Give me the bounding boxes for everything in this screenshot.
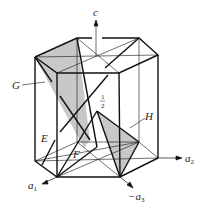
plane-H-shading bbox=[97, 111, 139, 177]
interior-lines bbox=[22, 24, 158, 177]
a2-axis-label: a2 bbox=[185, 152, 195, 166]
line-E-label: E bbox=[40, 132, 48, 144]
c-axis-label: c bbox=[93, 6, 98, 18]
plane-H-label: H bbox=[144, 110, 154, 122]
half-denominator: 2 bbox=[101, 102, 105, 110]
line-F-label: F bbox=[72, 148, 80, 160]
a1-axis-label: a1 bbox=[28, 179, 38, 193]
hexagonal-cell-diagram: c G H E F 1 2 a2 a1 −a3 bbox=[0, 0, 203, 211]
plane-G-label: G bbox=[12, 79, 20, 91]
a3-axis-label: −a3 bbox=[128, 190, 145, 204]
half-numerator: 1 bbox=[101, 93, 105, 101]
